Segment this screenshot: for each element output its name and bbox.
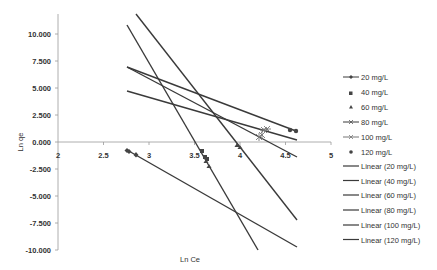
legend-label: 20 mg/L [361,73,388,82]
legend-label: 120 mg/L [361,148,392,157]
legend-label: Linear (20 mg/L) [361,162,417,171]
y-tick-label: -10.000 [26,246,51,255]
isotherm-chart: 10.000 7.500 5.000 2.500 0.000 -2.500 -5… [0,0,437,270]
x-tick-label: 3.5 [189,151,199,160]
legend-label: Linear (120 mg/L) [361,236,421,245]
trendline-100 [127,91,297,140]
y-tick-label: 5.000 [32,84,51,93]
legend-item-linear-120: Linear (120 mg/L) [343,236,421,245]
legend-label: Linear (40 mg/L) [361,177,417,186]
legend-label: 100 mg/L [361,133,392,142]
legend-item-120: 120 mg/L [349,148,392,157]
x-tick-label: 2.5 [98,151,108,160]
y-tick-label: 2.500 [32,111,51,120]
trendlines [127,14,297,250]
legend-item-linear-60: Linear (60 mg/L) [343,191,417,200]
legend-item-linear-80: Linear (80 mg/L) [343,206,417,215]
x-ticks: 2 2.5 3 3.5 4 4.5 5 [56,142,333,160]
legend-label: Linear (60 mg/L) [361,191,417,200]
y-tick-label: 7.500 [32,57,51,66]
legend-item-80: 80 mg/L [343,118,388,127]
y-tick-label: 10.000 [28,30,51,39]
y-axis-title: Ln qe [16,133,25,152]
y-ticks: 10.000 7.500 5.000 2.500 0.000 -2.500 -5… [26,30,58,255]
legend-item-40: 40 mg/L [349,88,388,97]
legend-label: Linear (80 mg/L) [361,206,417,215]
x-tick-label: 4 [238,151,243,160]
x-tick-label: 2 [56,151,60,160]
trendline-20 [127,150,297,247]
y-tick-label: 0.000 [32,138,51,147]
y-tick-label: -5.000 [30,192,51,201]
legend: 20 mg/L 40 mg/L 60 mg/L 80 mg/L 100 mg/L… [343,73,421,245]
legend-item-100: 100 mg/L [343,133,392,142]
y-tick-label: -2.500 [30,165,51,174]
y-tick-label: -7.500 [30,219,51,228]
legend-item-60: 60 mg/L [349,103,388,112]
x-tick-label: 5 [329,151,333,160]
trendline-40 [127,25,258,250]
trendline-80 [127,67,297,157]
legend-label: Linear (100 mg/L) [361,221,421,230]
legend-label: 60 mg/L [361,103,388,112]
legend-item-20: 20 mg/L [343,73,388,82]
legend-item-linear-100: Linear (100 mg/L) [343,221,421,230]
x-axis-title: Ln Ce [180,255,200,264]
legend-item-linear-20: Linear (20 mg/L) [343,162,417,171]
markers-60 [204,143,243,168]
legend-label: 40 mg/L [361,88,388,97]
x-tick-label: 3 [147,151,151,160]
legend-label: 80 mg/L [361,118,388,127]
legend-item-linear-40: Linear (40 mg/L) [343,177,417,186]
